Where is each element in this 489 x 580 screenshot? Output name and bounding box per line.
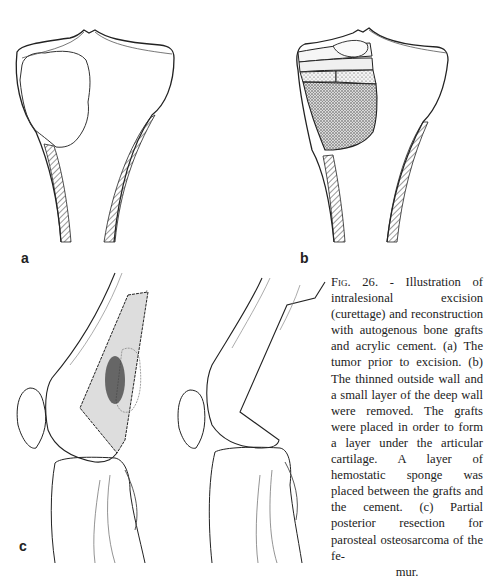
panel-a-tibia-tumor	[0, 0, 245, 250]
caption-separator: -	[378, 275, 406, 289]
figure-caption: Fig. 26. - Illustration of intralesional…	[331, 274, 483, 580]
panel-label-b: b	[300, 250, 309, 266]
tibia-grafts-drawing	[245, 0, 489, 250]
caption-last-line: mur.	[331, 564, 483, 580]
panel-b-tibia-grafts	[245, 0, 489, 250]
panel-label-c: c	[19, 538, 27, 554]
knee-lateral-drawing	[0, 270, 330, 563]
panel-c-knee-resection	[0, 270, 330, 563]
panel-label-a: a	[21, 250, 29, 266]
tibia-tumor-drawing	[0, 0, 245, 250]
figure-number: Fig. 26.	[331, 275, 378, 289]
caption-body: Illustration of intralesional excision (…	[331, 275, 483, 563]
